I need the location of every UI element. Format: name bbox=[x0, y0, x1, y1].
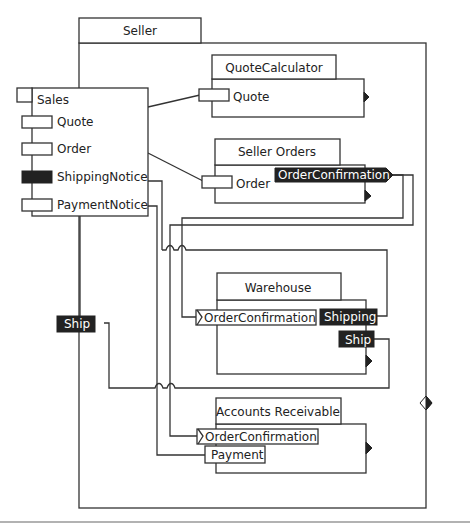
sales-title: Sales bbox=[37, 93, 69, 107]
svg-text:Quote: Quote bbox=[233, 90, 269, 104]
port-quote-in[interactable] bbox=[199, 89, 229, 101]
external-ship-port[interactable]: Ship bbox=[57, 316, 95, 332]
port-quote[interactable] bbox=[22, 116, 52, 128]
sales-component[interactable]: Sales Quote Order ShippingNotice Payment… bbox=[17, 88, 148, 216]
seller-title: Seller bbox=[123, 24, 157, 38]
svg-text:Ship: Ship bbox=[345, 333, 371, 347]
svg-text:Quote: Quote bbox=[57, 115, 93, 129]
svg-text:OrderConfirmation: OrderConfirmation bbox=[204, 311, 316, 325]
svg-text:Shipping: Shipping bbox=[324, 310, 376, 324]
svg-text:OrderConfirmation: OrderConfirmation bbox=[205, 430, 317, 444]
svg-text:QuoteCalculator: QuoteCalculator bbox=[225, 61, 322, 75]
svg-text:Payment: Payment bbox=[211, 448, 264, 462]
svg-text:Accounts Receivable: Accounts Receivable bbox=[216, 405, 340, 419]
port-shipping-notice[interactable] bbox=[22, 171, 52, 183]
svg-text:Seller Orders: Seller Orders bbox=[238, 145, 316, 159]
svg-text:Warehouse: Warehouse bbox=[245, 281, 312, 295]
svg-text:Ship: Ship bbox=[64, 317, 90, 331]
svg-text:ShippingNotice: ShippingNotice bbox=[57, 170, 148, 184]
component-diagram: Seller Sales Quote Order ShippingNotice … bbox=[0, 0, 470, 527]
port-order-in[interactable] bbox=[202, 176, 232, 188]
svg-text:PaymentNotice: PaymentNotice bbox=[57, 198, 148, 212]
svg-text:OrderConfirmation: OrderConfirmation bbox=[278, 168, 390, 182]
svg-text:Order: Order bbox=[236, 177, 270, 191]
port-order[interactable] bbox=[22, 143, 52, 155]
port-payment-notice[interactable] bbox=[22, 199, 52, 211]
svg-text:Order: Order bbox=[57, 142, 91, 156]
